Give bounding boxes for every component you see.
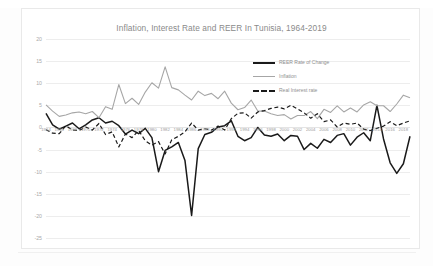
y-axis-tick-label: -10 [35,169,43,175]
legend-line-icon-reer [253,59,275,65]
chart-container: Inflation, Interest Rate and REER In Tun… [21,8,420,249]
chart-title: Inflation, Interest Rate and REER In Tun… [22,23,421,33]
gridline [46,238,410,239]
chart-screenshot: Inflation, Interest Rate and REER In Tun… [0,0,433,266]
legend-line-icon-real-interest-rate [253,87,275,93]
legend-label-real-interest-rate: Real Interest rate [279,87,317,93]
chart-legend: REER Rate of Change Inflation Real Inter… [253,55,373,97]
y-axis-tick-label: 15 [36,58,42,64]
series-line [46,105,410,154]
y-axis-tick-label: 0 [39,124,42,130]
legend-label-inflation: Inflation [279,73,297,79]
y-axis-tick-label: -5 [37,147,42,153]
legend-item-reer-rate-of-change: REER Rate of Change [253,55,373,68]
series-line [46,105,410,215]
legend-item-inflation: Inflation [253,69,373,82]
y-axis-tick-label: 5 [39,102,42,108]
y-axis-tick-label: -20 [35,213,43,219]
y-axis-tick-label: -25 [35,235,43,241]
y-axis-tick-label: -15 [35,191,43,197]
y-axis-tick-label: 20 [36,36,42,42]
y-axis-tick-label: 10 [36,80,42,86]
legend-item-real-interest-rate: Real Interest rate [253,83,373,96]
legend-line-icon-inflation [253,73,275,79]
legend-label-reer: REER Rate of Change [279,59,329,65]
page-top-margin [0,0,433,8]
page-bottom-rule [18,252,416,253]
